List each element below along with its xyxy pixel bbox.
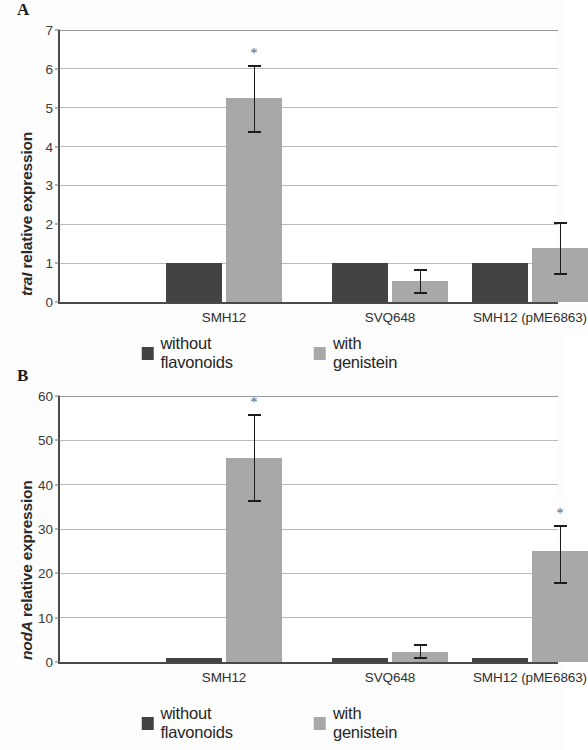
y-axis-tick-label: 0: [45, 655, 53, 670]
significance-asterisk: *: [251, 47, 258, 61]
gridline: [60, 484, 558, 485]
gridline: [60, 146, 558, 147]
error-bar-cap-bottom: [554, 582, 567, 584]
y-axis-tick-mark: [55, 68, 60, 69]
y-axis-tick-mark: [55, 107, 60, 108]
gridline: [60, 529, 558, 530]
panel-a-y-axis-title: traI relative expression: [18, 132, 36, 296]
panel-a-gene-name: traI: [18, 273, 35, 296]
legend-item-with-genistein: with genistein: [314, 334, 424, 372]
panel-b-gene-name: nodA: [18, 621, 35, 660]
gridline: [60, 573, 558, 574]
error-bar: [560, 222, 561, 274]
legend-label-without-flavonoids: without flavonoids: [160, 334, 279, 372]
error-bar-cap-bottom: [248, 131, 261, 133]
y-axis-tick-label: 30: [38, 522, 53, 537]
legend-label-with-genistein: with genistein: [333, 334, 424, 372]
gridline: [60, 107, 558, 108]
panel-b-y-axis-suffix: relative expression: [18, 480, 35, 621]
gridline: [60, 396, 558, 397]
legend-label-without-flavonoids: without flavonoids: [160, 704, 279, 742]
error-bar-cap-bottom: [248, 500, 261, 502]
error-bar: [254, 414, 255, 503]
y-axis-tick-label: 6: [45, 61, 53, 76]
panel-b-letter: B: [17, 366, 28, 386]
y-axis-tick-mark: [55, 573, 60, 574]
error-bar: [560, 525, 561, 585]
panel-a-letter: A: [17, 0, 29, 20]
panel-a-plot-area: 01234567*SMH12SVQ648SMH12 (pME6863): [58, 30, 558, 304]
error-bar-cap-bottom: [414, 292, 427, 294]
y-axis-tick-mark: [55, 185, 60, 186]
legend-swatch-icon-with-genistein: [314, 717, 326, 730]
y-axis-tick-label: 2: [45, 217, 53, 232]
bar-svq648-without-flavonoids: [332, 263, 388, 302]
y-axis-tick-label: 4: [45, 139, 53, 154]
y-axis-tick-label: 10: [38, 610, 53, 625]
error-bar-cap-top: [248, 414, 261, 416]
panel-a-y-axis-suffix: relative expression: [18, 132, 35, 273]
y-axis-tick-label: 60: [38, 389, 53, 404]
legend-swatch-icon-with-genistein: [314, 347, 326, 360]
gridline: [60, 68, 558, 69]
legend-swatch-icon-without-flavonoids: [141, 347, 153, 360]
y-axis-tick-mark: [55, 302, 60, 303]
error-bar-cap-bottom: [414, 657, 427, 659]
y-axis-tick-mark: [55, 224, 60, 225]
x-axis-category-label: SVQ648: [365, 670, 415, 685]
error-bar-cap-top: [248, 65, 261, 67]
y-axis-tick-mark: [55, 484, 60, 485]
error-bar: [420, 269, 421, 294]
x-axis-category-label: SMH12 (pME6863): [473, 310, 587, 325]
y-axis-tick-mark: [55, 263, 60, 264]
y-axis-tick-mark: [55, 146, 60, 147]
error-bar-cap-top: [414, 644, 427, 646]
legend-label-with-genistein: with genistein: [333, 704, 424, 742]
significance-asterisk: *: [557, 507, 564, 521]
panel-a-legend: without flavonoids with genistein: [141, 334, 424, 372]
y-axis-tick-mark: [55, 662, 60, 663]
gridline: [60, 185, 558, 186]
error-bar-cap-bottom: [554, 273, 567, 275]
y-axis-tick-mark: [55, 440, 60, 441]
y-axis-tick-label: 50: [38, 433, 53, 448]
y-axis-tick-label: 1: [45, 256, 53, 271]
y-axis-tick-label: 7: [45, 23, 53, 38]
bar-smh12-without-flavonoids: [166, 263, 222, 302]
gridline: [60, 30, 558, 31]
y-axis-tick-mark: [55, 30, 60, 31]
x-axis-category-label: SVQ648: [365, 310, 415, 325]
y-axis-tick-label: 5: [45, 100, 53, 115]
panel-b-y-axis-title: nodA relative expression: [18, 480, 36, 660]
legend-swatch-icon-without-flavonoids: [141, 717, 153, 730]
gridline: [60, 224, 558, 225]
legend-item-without-flavonoids: without flavonoids: [141, 704, 280, 742]
y-axis-tick-mark: [55, 617, 60, 618]
bar-smh12-pme6863--without-flavonoids: [472, 658, 528, 662]
panel-b-legend: without flavonoids with genistein: [141, 704, 424, 742]
gridline: [60, 440, 558, 441]
panel-b-plot-area: 0102030405060*SMH12SVQ648*SMH12 (pME6863…: [58, 396, 558, 664]
y-axis-tick-mark: [55, 529, 60, 530]
x-axis-category-label: SMH12: [202, 670, 247, 685]
panel-a: A traI relative expression 01234567*SMH1…: [0, 0, 565, 368]
bar-svq648-without-flavonoids: [332, 658, 388, 662]
significance-asterisk: *: [251, 396, 258, 410]
bar-smh12-pme6863--without-flavonoids: [472, 263, 528, 302]
gridline: [60, 617, 558, 618]
legend-item-with-genistein: with genistein: [314, 704, 424, 742]
y-axis-tick-mark: [55, 396, 60, 397]
x-axis-category-label: SMH12 (pME6863): [473, 670, 587, 685]
y-axis-tick-label: 20: [38, 566, 53, 581]
y-axis-tick-label: 40: [38, 477, 53, 492]
error-bar: [420, 644, 421, 659]
y-axis-tick-label: 0: [45, 295, 53, 310]
error-bar-cap-top: [554, 525, 567, 527]
legend-item-without-flavonoids: without flavonoids: [141, 334, 280, 372]
error-bar: [254, 65, 255, 133]
y-axis-tick-label: 3: [45, 178, 53, 193]
x-axis-category-label: SMH12: [202, 310, 247, 325]
error-bar-cap-top: [414, 269, 427, 271]
panel-b: B nodA relative expression 0102030405060…: [0, 368, 565, 750]
